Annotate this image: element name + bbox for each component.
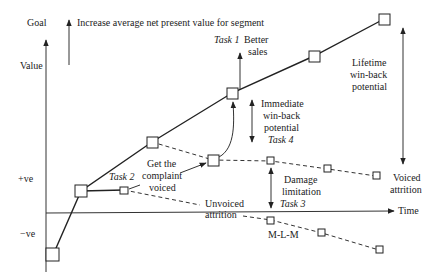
unvoiced-text-1: Unvoiced	[205, 198, 244, 209]
y-axis-label: Value	[20, 60, 43, 71]
task1-text-2: sales	[248, 46, 268, 57]
lifetime-text-2: win-back	[350, 69, 387, 80]
positive-label: +ve	[18, 173, 34, 184]
node-box	[147, 137, 158, 148]
immediate-text-1: Immediate	[261, 98, 304, 109]
task3-label: Task 3	[280, 198, 305, 209]
recovery-curve-arrow	[219, 102, 234, 157]
complaint-text-3: voiced	[149, 182, 176, 193]
unvoiced-text-2: attrition	[205, 209, 237, 220]
node-box	[379, 14, 390, 25]
node-box	[376, 246, 383, 253]
voiced-text-1: Voiced	[393, 172, 421, 183]
lifetime-text-1: Lifetime	[352, 57, 387, 68]
node-box	[373, 172, 380, 179]
lifetime-text-3: potential	[352, 81, 387, 92]
node-box	[208, 155, 219, 166]
complaint-text-2: complaint	[142, 170, 182, 181]
goal-label: Goal	[27, 17, 47, 28]
voiced-text-2: attrition	[390, 184, 422, 195]
damage-text-1: Damage	[284, 174, 318, 185]
node-box	[227, 88, 238, 99]
goal-text: Increase average net present value for s…	[77, 17, 264, 28]
immediate-text-3: potential	[264, 122, 299, 133]
negative-label: −ve	[20, 228, 36, 239]
task2-label: Task 2	[109, 171, 134, 182]
node-box	[318, 229, 325, 236]
immediate-text-2: win-back	[263, 110, 300, 121]
node-box	[324, 165, 331, 172]
complaint-text-1: Get the	[147, 158, 177, 169]
node-box	[120, 187, 128, 194]
node-box	[46, 248, 59, 261]
task1-label: Task 1	[214, 34, 239, 45]
x-axis-label: Time	[398, 205, 419, 216]
diagram-canvas: Goal Increase average net present value …	[0, 0, 441, 279]
task2-leader	[129, 185, 140, 189]
complaint-arrow	[180, 163, 206, 173]
customer-value-diagram: Goal Increase average net present value …	[0, 0, 441, 279]
task1-text-1: Better	[244, 34, 269, 45]
node-box	[75, 185, 87, 197]
mlm-label: M-L-M	[268, 229, 299, 240]
task4-label: Task 4	[268, 134, 293, 145]
damage-text-2: limitation	[282, 186, 321, 197]
node-box	[267, 157, 274, 164]
unvoiced-line-b	[243, 216, 379, 250]
node-box	[267, 217, 274, 224]
node-box	[309, 51, 320, 62]
